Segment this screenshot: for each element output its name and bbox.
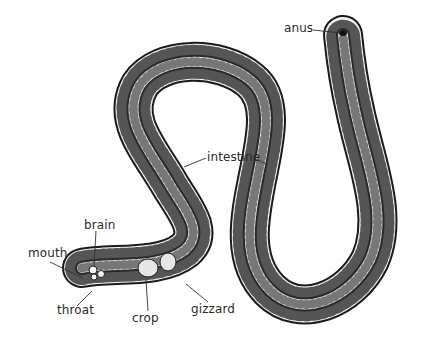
label-brain: brain — [84, 218, 115, 232]
brain-organ — [89, 266, 97, 274]
label-gizzard: gizzard — [191, 302, 235, 316]
label-crop: crop — [132, 311, 159, 325]
gizzard-organ — [160, 253, 176, 271]
worm-body — [82, 35, 378, 304]
gizzard-leader — [186, 284, 208, 302]
crop-leader — [146, 280, 148, 311]
intestine-leader-left — [184, 158, 206, 167]
tail-tip — [339, 30, 347, 36]
crop-organ — [138, 259, 158, 277]
label-throat: throat — [57, 303, 94, 317]
label-anus: anus — [284, 21, 313, 35]
earthworm-illustration — [0, 0, 435, 344]
earthworm-diagram: anus intestine brain mouth throat crop g… — [0, 0, 435, 344]
label-mouth: mouth — [28, 246, 67, 260]
label-intestine: intestine — [207, 150, 260, 164]
